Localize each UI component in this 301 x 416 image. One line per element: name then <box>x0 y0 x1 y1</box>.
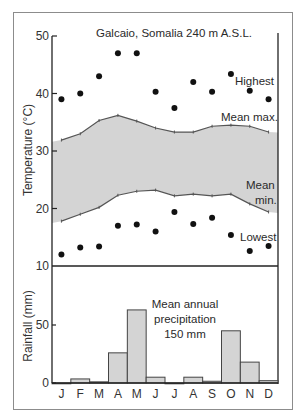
lowest-point <box>77 245 83 251</box>
highest-point <box>96 73 102 79</box>
temp-tick-label: 10 <box>36 259 50 273</box>
rainfall-bar <box>184 377 203 383</box>
month-label: J <box>171 387 177 401</box>
rain-y-ticks: 050 <box>36 318 56 390</box>
rainfall-bar <box>109 353 128 383</box>
rainfall-bar <box>127 310 146 383</box>
lowest-point <box>247 248 253 254</box>
month-label: J <box>58 387 64 401</box>
rainfall-bar <box>146 377 165 383</box>
precip-annotation-2: precipitation <box>154 313 216 325</box>
highest-label: Highest <box>235 75 275 87</box>
temp-y-ticks: 1020304050 <box>36 29 57 273</box>
lowest-point <box>266 243 272 249</box>
temp-y-axis-label: Temperature (°C) <box>21 104 35 196</box>
month-label: A <box>114 387 122 401</box>
lowest-point <box>190 221 196 227</box>
precip-annotation-3: 150 mm <box>164 328 206 340</box>
highest-point <box>153 89 159 95</box>
highest-point <box>77 91 83 97</box>
lowest-point <box>96 243 102 249</box>
lowest-point <box>209 215 215 221</box>
lowest-point <box>134 222 140 228</box>
month-label: S <box>208 387 216 401</box>
highest-point <box>266 96 272 102</box>
temp-tick-label: 40 <box>36 87 50 101</box>
mean-min-label-2: min. <box>255 194 277 206</box>
month-label: O <box>226 387 235 401</box>
mean-min-label-1: Mean <box>246 179 275 191</box>
rain-tick-label: 0 <box>42 376 49 390</box>
lowest-point <box>228 232 234 238</box>
highest-point <box>209 89 215 95</box>
highest-point <box>115 50 121 56</box>
highest-point <box>247 88 253 94</box>
rain-tick-label: 50 <box>36 318 50 332</box>
month-label: D <box>264 387 273 401</box>
lowest-point <box>171 209 177 215</box>
temp-tick-label: 50 <box>36 29 50 43</box>
month-label: N <box>245 387 254 401</box>
highest-point <box>58 96 64 102</box>
rainfall-bar <box>222 331 241 383</box>
temp-tick-label: 20 <box>36 202 50 216</box>
month-label: J <box>153 387 159 401</box>
mean-max-label: Mean max. <box>221 111 278 123</box>
mean-range-band <box>52 115 278 223</box>
climate-chart: 1020304050 Galcaio, Somalia 240 m A.S.L.… <box>0 0 301 416</box>
highest-point <box>134 50 140 56</box>
month-labels: JFMAMJJASOND <box>58 387 273 401</box>
month-label: M <box>94 387 104 401</box>
month-label: F <box>77 387 84 401</box>
lowest-point <box>153 229 159 235</box>
rainfall-panel: 050 JFMAMJJASOND Mean annual precipitati… <box>21 266 278 401</box>
temp-tick-label: 30 <box>36 144 50 158</box>
precip-annotation-1: Mean annual <box>152 298 219 310</box>
rainfall-bar <box>240 362 259 383</box>
month-label: M <box>132 387 142 401</box>
highest-point <box>190 79 196 85</box>
lowest-label: Lowest <box>240 231 277 243</box>
lowest-point <box>58 252 64 258</box>
highest-point <box>171 105 177 111</box>
lowest-point <box>115 223 121 229</box>
chart-title: Galcaio, Somalia 240 m A.S.L. <box>96 27 252 39</box>
month-label: A <box>189 387 197 401</box>
rain-y-axis-label: Rainfall (mm) <box>21 290 35 361</box>
highest-point <box>228 71 234 77</box>
